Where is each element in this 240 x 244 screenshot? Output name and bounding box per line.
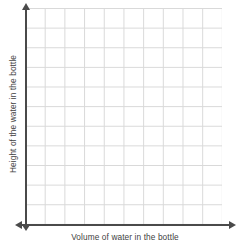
y-axis-arrow-up-icon bbox=[22, 3, 30, 10]
y-axis-line bbox=[25, 8, 27, 226]
x-axis-line bbox=[19, 224, 234, 226]
y-axis-arrow-down-icon bbox=[22, 225, 30, 231]
blank-graph-figure: Height of the water in the bottle Volume… bbox=[0, 0, 240, 244]
x-axis-label: Volume of water in the bottle bbox=[25, 232, 225, 242]
x-axis-arrow-right-icon bbox=[229, 221, 236, 229]
y-axis-label: Height of the water in the bottle bbox=[8, 39, 18, 189]
chart-grid bbox=[25, 8, 222, 224]
